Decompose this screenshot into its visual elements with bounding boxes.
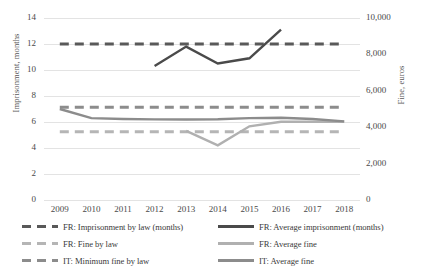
series-line (155, 30, 281, 66)
y-tick-left: 14 (8, 12, 36, 22)
legend-item[interactable]: FR: Average fine (218, 239, 422, 249)
y-tick-right: 8,000 (366, 48, 386, 58)
y-tick-left: 6 (8, 116, 36, 126)
legend-item[interactable]: IT: Minimum fine by law (22, 256, 218, 266)
y-axis-right-title: Fine, euros (396, 35, 406, 135)
y-tick-right: 10,000 (366, 12, 391, 22)
legend-label: FR: Imprisonment by law (months) (63, 222, 183, 232)
x-tick: 2018 (324, 204, 364, 214)
series-line (60, 109, 344, 121)
legend-item[interactable]: FR: Imprisonment by law (months) (22, 222, 218, 232)
y-tick-left: 8 (8, 90, 36, 100)
y-tick-right: 0 (366, 194, 371, 204)
legend-item[interactable]: FR: Fine by law (22, 239, 218, 249)
legend-label: IT: Minimum fine by law (63, 256, 149, 266)
plot-area (44, 18, 360, 200)
legend-label: FR: Fine by law (63, 239, 118, 249)
y-tick-left: 2 (8, 168, 36, 178)
legend-label: IT: Average fine (259, 256, 314, 266)
series-layer (44, 18, 360, 200)
chart-container: Imprisonment, months Fine, euros 0246810… (0, 0, 430, 273)
y-tick-right: 4,000 (366, 121, 386, 131)
legend-label: FR: Average imprisonment (months) (259, 222, 383, 232)
y-tick-right: 6,000 (366, 85, 386, 95)
legend-item[interactable]: FR: Average imprisonment (months) (218, 222, 422, 232)
y-tick-left: 4 (8, 142, 36, 152)
y-tick-right: 2,000 (366, 158, 386, 168)
gridline (44, 200, 360, 201)
y-tick-left: 10 (8, 64, 36, 74)
y-tick-left: 0 (8, 194, 36, 204)
y-tick-left: 12 (8, 38, 36, 48)
legend-label: FR: Average fine (259, 239, 317, 249)
legend-item[interactable]: IT: Average fine (218, 256, 422, 266)
series-line (186, 122, 344, 146)
chart-legend: FR: Imprisonment by law (months)FR: Aver… (22, 218, 422, 270)
